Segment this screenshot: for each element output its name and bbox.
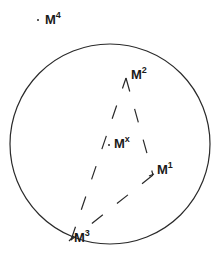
diagram-canvas — [0, 0, 219, 267]
point-m4-dot — [37, 19, 39, 21]
edge-m2-m1 — [126, 78, 153, 175]
label-m3: M3 — [74, 229, 90, 244]
label-mx: Mx — [114, 135, 130, 150]
edge-m3-m2 — [71, 78, 126, 240]
label-m2: M2 — [131, 66, 147, 81]
boundary-circle — [10, 44, 210, 244]
label-m1: M1 — [157, 161, 173, 176]
point-mx-dot — [108, 144, 110, 146]
label-m4: M4 — [45, 11, 61, 26]
